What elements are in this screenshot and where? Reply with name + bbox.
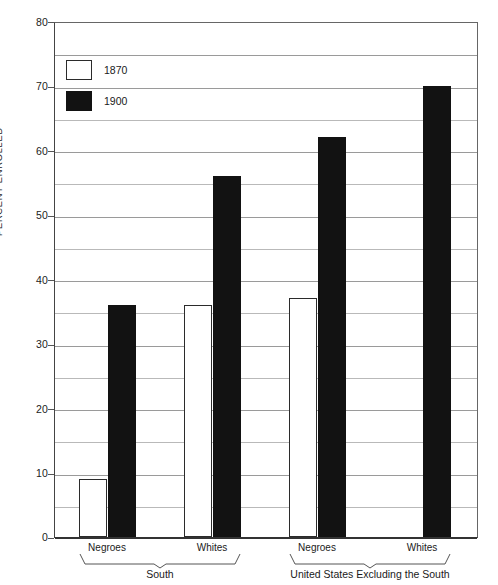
y-tick-label: 30 xyxy=(14,338,48,350)
y-tick-label: 40 xyxy=(14,274,48,286)
bar-1870-south-whites xyxy=(184,305,212,537)
legend-entry-1870: 1870 xyxy=(66,57,127,83)
gridline-65 xyxy=(55,120,477,121)
legend-swatch-hollow-square-icon xyxy=(66,60,92,80)
category-label-ussouthex-whites: Whites xyxy=(387,542,457,553)
legend-label: 1900 xyxy=(104,95,127,107)
gridline-45 xyxy=(55,249,477,250)
category-label-south-negroes: Negroes xyxy=(72,542,142,553)
bar-1870-ussouthex-negroes xyxy=(289,298,317,537)
category-label-ussouthex-negroes: Negroes xyxy=(282,542,352,553)
gridline-50 xyxy=(55,217,477,218)
y-tick-label: 10 xyxy=(14,467,48,479)
y-tick-label: 20 xyxy=(14,403,48,415)
bar-1870-south-negroes xyxy=(79,479,107,537)
gridline-60 xyxy=(55,152,477,153)
group-brace-south xyxy=(78,553,242,569)
gridline-40 xyxy=(55,281,477,282)
group-brace-ussouthex xyxy=(288,553,452,569)
gridline-55 xyxy=(55,184,477,185)
bar-1900-south-negroes xyxy=(108,305,136,537)
y-tick-label: 50 xyxy=(14,209,48,221)
y-axis-title: PERCENT ENROLLED xyxy=(0,127,4,236)
legend-entry-1900: 1900 xyxy=(66,88,127,114)
legend-label: 1870 xyxy=(104,64,127,76)
group-label-ussouthex: United States Excluding the South xyxy=(280,568,460,580)
bar-chart: PERCENT ENROLLED 80 70 60 50 40 30 20 10… xyxy=(0,0,498,585)
category-label-south-whites: Whites xyxy=(177,542,247,553)
y-tick-label: 60 xyxy=(14,145,48,157)
bar-1900-south-whites xyxy=(213,176,241,537)
axis-baseline xyxy=(55,538,477,539)
y-tick-label: 80 xyxy=(14,16,48,28)
bar-1900-ussouthex-negroes xyxy=(318,137,346,537)
legend: 1870 1900 xyxy=(66,57,127,119)
y-tick-label: 0 xyxy=(14,531,48,543)
y-tick-label: 70 xyxy=(14,80,48,92)
bar-1900-ussouthex-whites xyxy=(423,86,451,538)
group-label-south: South xyxy=(110,568,210,580)
legend-swatch-filled-square-icon xyxy=(66,91,92,111)
